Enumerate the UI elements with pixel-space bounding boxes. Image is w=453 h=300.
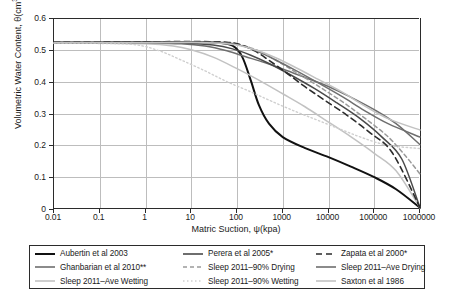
curve-zapata-et-al-2000	[54, 42, 420, 208]
curve-sleep-2011-90-drying	[54, 42, 420, 174]
y-tick-label: 0.1	[22, 172, 46, 182]
y-tick-label: 0	[22, 204, 46, 214]
y-tick-label: 0.3	[22, 109, 46, 119]
legend-item[interactable]: Aubertin et al 2003	[34, 247, 182, 260]
x-tick-label: 100000	[359, 212, 387, 222]
legend: Aubertin et al 2003Perera et al 2005*Zap…	[29, 245, 425, 289]
chart-figure: 0.010.11101001000100001000001000000 00.1…	[0, 0, 453, 300]
legend-item[interactable]: Sleep 2011–90% Drying	[182, 261, 315, 274]
y-axis-title-sup1: 3	[11, 0, 18, 2]
x-tick-label: 100	[229, 212, 243, 222]
x-tick-label: 1000	[272, 212, 291, 222]
legend-label: Sleep 2011–Ave Drying	[341, 263, 425, 272]
curve-sleep-2011-90-wetting	[54, 43, 420, 148]
x-tick-label: 1000000	[403, 212, 435, 222]
legend-line-icon	[34, 276, 56, 286]
y-tick-label: 0.2	[22, 140, 46, 150]
legend-item[interactable]: Saxton et al 1986	[315, 275, 430, 288]
legend-line-icon	[182, 262, 204, 272]
y-tick-label: 0.6	[22, 13, 46, 23]
y-axis-title-text: Volumetric Water Content, θ(cm	[13, 2, 23, 129]
legend-label: Sleep 2011–Ave Wetting	[60, 277, 148, 286]
curve-perera-et-al-2005	[54, 43, 420, 208]
legend-item[interactable]: Ghanbarian et al 2010**	[34, 261, 182, 274]
legend-line-icon	[315, 262, 337, 272]
y-tick-mark	[49, 177, 53, 178]
curve-sleep-2011-ave-wetting	[54, 43, 420, 208]
legend-label: Sleep 2011–90% Wetting	[208, 277, 299, 286]
legend-line-icon	[315, 276, 337, 286]
curve-layer	[54, 18, 420, 209]
legend-line-icon	[34, 249, 56, 259]
y-tick-label: 0.5	[22, 45, 46, 55]
y-tick-label: 0.4	[22, 77, 46, 87]
x-axis-title: Matric Suction, ψ(kpa)	[53, 224, 419, 234]
legend-line-icon	[34, 262, 56, 272]
legend-grid: Aubertin et al 2003Perera et al 2005*Zap…	[30, 246, 424, 288]
gridline-vertical	[420, 18, 421, 208]
legend-item[interactable]: Sleep 2011–90% Wetting	[182, 275, 315, 288]
legend-item[interactable]: Sleep 2011–Ave Wetting	[34, 275, 182, 288]
legend-item[interactable]: Sleep 2011–Ave Drying	[315, 261, 430, 274]
y-tick-mark	[49, 114, 53, 115]
legend-label: Perera et al 2005*	[208, 249, 273, 258]
x-tick-label: 10000	[316, 212, 339, 222]
x-tick-label: 1	[142, 212, 147, 222]
legend-label: Aubertin et al 2003	[60, 249, 128, 258]
curve-ghanbarian-et-al-2010	[54, 43, 420, 145]
legend-label: Sleep 2011–90% Drying	[208, 263, 295, 272]
legend-label: Zapata et al 2000*	[341, 249, 407, 258]
y-tick-mark	[49, 82, 53, 83]
legend-line-icon	[182, 276, 204, 286]
y-tick-mark	[49, 50, 53, 51]
legend-label: Ghanbarian et al 2010**	[60, 263, 146, 272]
legend-item[interactable]: Perera et al 2005*	[182, 247, 315, 260]
y-tick-mark	[49, 145, 53, 146]
x-tick-label: 0.01	[45, 212, 61, 222]
x-tick-label: 10	[186, 212, 195, 222]
y-axis-title: Volumetric Water Content, θ(cm3/cm3)	[13, 0, 23, 148]
x-tick-label: 0.1	[93, 212, 105, 222]
plot-area	[53, 18, 419, 209]
legend-item[interactable]: Zapata et al 2000*	[315, 247, 430, 260]
legend-line-icon	[315, 249, 337, 259]
legend-label: Saxton et al 1986	[341, 277, 404, 286]
legend-line-icon	[182, 249, 204, 259]
y-tick-mark	[49, 18, 53, 19]
y-tick-mark	[49, 209, 53, 210]
curve-aubertin-et-al-2003	[54, 42, 420, 208]
